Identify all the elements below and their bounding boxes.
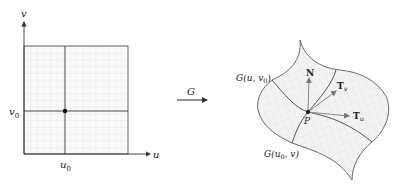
u-axis-label: u — [153, 149, 159, 160]
mapping-G: G — [177, 86, 207, 100]
N-label: N — [306, 68, 314, 78]
mapping-label: G — [187, 86, 195, 97]
v-axis-label: v — [21, 8, 27, 19]
curve-u0-v-label: G(u0, v) — [264, 149, 299, 161]
point-u0-v0 — [63, 109, 67, 113]
surface: P N Tv Tu G(u, v0) G(u0, v) — [236, 40, 389, 180]
v0-label: v0 — [9, 106, 19, 120]
uv-domain-plot: v u v0 u0 — [9, 8, 159, 173]
point-P — [306, 110, 310, 114]
P-label: P — [303, 116, 311, 126]
u0-label: u0 — [60, 159, 71, 173]
curve-u-v0-label: G(u, v0) — [236, 73, 271, 85]
parametric-surface-diagram: v u v0 u0 G P N Tv Tu G(u, v0) G(u0, v) — [0, 0, 401, 187]
